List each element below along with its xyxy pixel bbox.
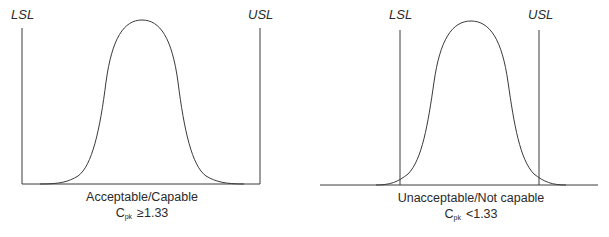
left-cpk-symbol: C <box>116 206 125 220</box>
right-cpk-caption: Cpk<1.33 <box>431 207 511 221</box>
right-caption-title: Unacceptable/Not capable <box>386 191 556 205</box>
right-distribution-curve <box>376 21 566 185</box>
left-caption-title: Acceptable/Capable <box>82 190 202 204</box>
right-panel-graph <box>320 21 598 185</box>
left-cpk-caption: Cpk≥1.33 <box>102 206 182 220</box>
left-cpk-subscript: pk <box>125 213 132 220</box>
left-usl-label: USL <box>248 7 273 22</box>
left-distribution-curve <box>40 20 244 184</box>
right-lsl-label: LSL <box>389 7 412 22</box>
left-cpk-condition: ≥1.33 <box>137 206 168 220</box>
right-cpk-subscript: pk <box>453 214 460 221</box>
right-cpk-condition: <1.33 <box>466 207 498 221</box>
right-usl-label: USL <box>528 7 553 22</box>
left-panel-graph <box>22 20 260 184</box>
left-lsl-label: LSL <box>11 7 34 22</box>
